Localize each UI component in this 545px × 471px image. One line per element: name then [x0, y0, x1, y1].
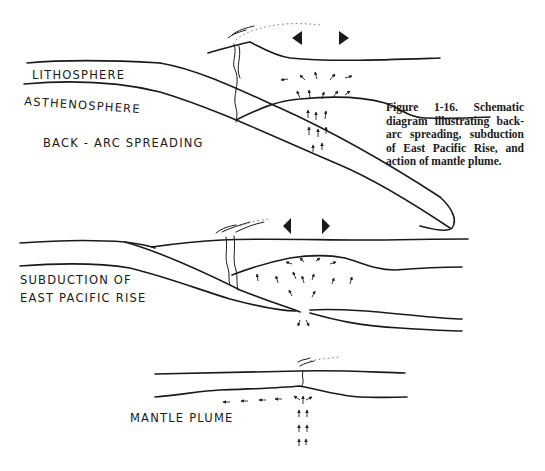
panel-title-mantle-plume: MANTLE PLUME: [130, 411, 234, 425]
spreading-arrows-icon: [292, 31, 349, 45]
spreading-arrows-icon: [283, 218, 330, 234]
convection-arrows-icon: [223, 396, 312, 446]
label-asthenosphere: ASTHENOSPHERE: [24, 94, 141, 116]
panel-title-back-arc: BACK - ARC SPREADING: [43, 136, 204, 150]
panel-subduction-epr: SUBDUCTION OF EAST PACIFIC RISE: [20, 218, 468, 331]
convection-arrows-icon: [281, 72, 352, 152]
tectonics-diagram: LITHOSPHERE ASTHENOSPHERE BACK - ARC SPR…: [0, 0, 545, 471]
panel-mantle-plume: MANTLE PLUME: [130, 357, 407, 446]
figure-caption: Figure 1-16. Schematic diagram illustrat…: [386, 101, 524, 169]
panel-title-subduction-line1: SUBDUCTION OF: [20, 273, 132, 287]
label-lithosphere: LITHOSPHERE: [32, 68, 125, 82]
convection-arrows-icon: [257, 258, 352, 326]
panel-title-subduction-line2: EAST PACIFIC RISE: [20, 291, 146, 305]
